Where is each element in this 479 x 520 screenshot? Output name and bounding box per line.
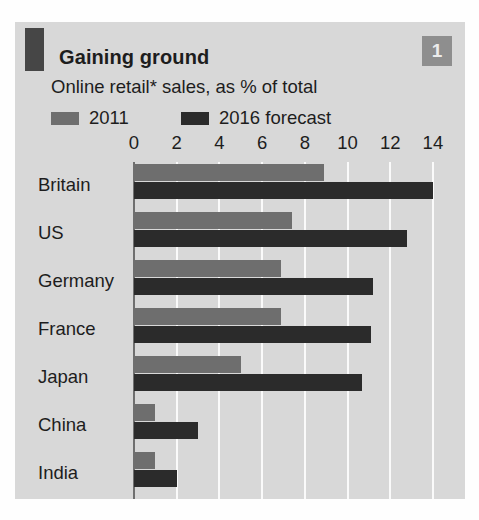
bar-row: Britain xyxy=(15,162,465,208)
bar-2016-forecast xyxy=(134,374,362,391)
bar-2016-forecast xyxy=(134,278,373,295)
bar-2011 xyxy=(134,212,292,229)
chart-panel: 1 Gaining ground Online retail* sales, a… xyxy=(15,22,465,499)
chart-figure: 1 Gaining ground Online retail* sales, a… xyxy=(0,0,479,520)
x-tick-label: 12 xyxy=(380,132,401,154)
bar-2011 xyxy=(134,452,155,469)
x-tick-label: 14 xyxy=(423,132,444,154)
bar-2011 xyxy=(134,404,155,421)
bar-row: Japan xyxy=(15,354,465,400)
category-label: France xyxy=(38,318,96,340)
bar-2011 xyxy=(134,164,324,181)
x-axis-tick-labels: 02468101214 xyxy=(15,132,465,158)
x-tick-label: 0 xyxy=(129,132,139,154)
category-label: Japan xyxy=(38,366,88,388)
bar-rows: BritainUSGermanyFranceJapanChinaIndia xyxy=(15,162,465,499)
bar-2016-forecast xyxy=(134,182,433,199)
category-label: Germany xyxy=(38,270,114,292)
bar-2016-forecast xyxy=(134,230,407,247)
x-tick-label: 10 xyxy=(337,132,358,154)
x-tick-label: 6 xyxy=(257,132,267,154)
category-label: China xyxy=(38,414,86,436)
bar-row: India xyxy=(15,450,465,496)
bar-2011 xyxy=(134,308,281,325)
bar-2016-forecast xyxy=(134,326,371,343)
bar-row: US xyxy=(15,210,465,256)
category-label: India xyxy=(38,462,78,484)
bar-row: France xyxy=(15,306,465,352)
bar-2016-forecast xyxy=(134,422,198,439)
x-tick-label: 8 xyxy=(300,132,310,154)
bar-2011 xyxy=(134,356,241,373)
x-tick-label: 2 xyxy=(172,132,182,154)
plot-area: 02468101214 BritainUSGermanyFranceJapanC… xyxy=(15,22,465,499)
bar-row: China xyxy=(15,402,465,448)
bar-2016-forecast xyxy=(134,470,177,487)
bar-row: Germany xyxy=(15,258,465,304)
category-label: Britain xyxy=(38,174,90,196)
x-tick-label: 4 xyxy=(214,132,224,154)
bar-2011 xyxy=(134,260,281,277)
category-label: US xyxy=(38,222,64,244)
